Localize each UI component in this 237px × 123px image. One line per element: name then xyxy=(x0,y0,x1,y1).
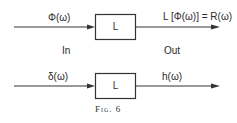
bottom-output-label: h(ω) xyxy=(162,72,182,82)
bottom-input-label: δ(ω) xyxy=(48,72,68,82)
bottom-input-arrow-icon xyxy=(87,84,95,89)
top-input-label: Φ(ω) xyxy=(48,13,70,23)
top-output-arrow-icon xyxy=(211,25,220,30)
top-block-label: L xyxy=(95,22,136,32)
out-label: Out xyxy=(164,46,180,56)
figure-caption: Fig. 6 xyxy=(95,104,121,114)
top-output-label: L [Φ(ω)] = R(ω) xyxy=(163,12,232,22)
bottom-block-label: L xyxy=(95,81,136,91)
in-label: In xyxy=(62,46,70,56)
bottom-output-arrow-icon xyxy=(211,84,220,89)
top-input-arrow-icon xyxy=(87,25,95,30)
